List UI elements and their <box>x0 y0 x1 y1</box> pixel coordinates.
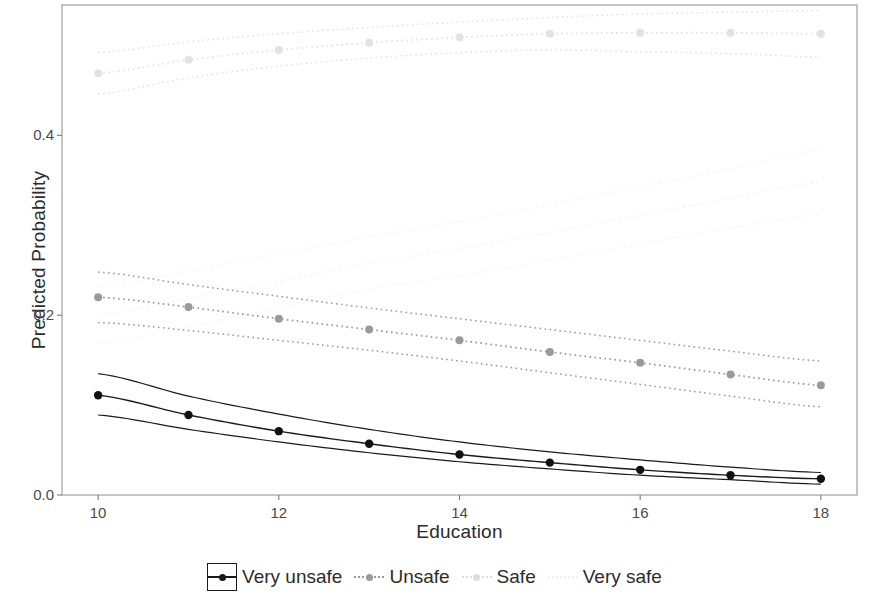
data-point <box>184 411 192 419</box>
data-point <box>275 46 283 54</box>
legend-entry-very-unsafe[interactable]: Very unsafe <box>207 563 342 591</box>
legend-marker <box>473 574 480 581</box>
data-point <box>94 293 102 301</box>
data-point <box>817 475 825 483</box>
y-tick-label: 0.0 <box>10 486 54 503</box>
data-point <box>365 39 373 47</box>
legend-marker <box>366 574 373 581</box>
y-tick-label: 0.2 <box>10 306 54 323</box>
x-tick-label: 10 <box>68 504 128 521</box>
data-point <box>546 458 554 466</box>
y-axis-title: Predicted Probability <box>26 0 52 525</box>
y-tick-label: 0.4 <box>10 126 54 143</box>
legend-entry-safe[interactable]: Safe <box>462 562 536 592</box>
data-point <box>94 391 102 399</box>
data-point <box>817 30 825 38</box>
data-point <box>275 315 283 323</box>
chart-figure: Predicted Probability Education 0.00.20.… <box>0 0 869 599</box>
legend-key-icon <box>462 562 492 592</box>
data-point <box>546 30 554 38</box>
data-point <box>365 326 373 334</box>
legend-entry-unsafe[interactable]: Unsafe <box>354 562 449 592</box>
data-point <box>817 381 825 389</box>
data-point <box>365 440 373 448</box>
legend-key-icon <box>354 562 384 592</box>
legend-label: Unsafe <box>389 566 449 588</box>
legend-key-icon <box>548 562 578 592</box>
x-tick-label: 16 <box>610 504 670 521</box>
data-point <box>726 471 734 479</box>
x-tick-label: 18 <box>791 504 851 521</box>
x-tick-label: 14 <box>430 504 490 521</box>
data-point <box>455 450 463 458</box>
x-axis-title: Education <box>62 521 857 543</box>
chart-legend: Very unsafeUnsafeSafeVery safe <box>0 558 869 596</box>
panel-border <box>62 5 857 495</box>
legend-marker <box>559 574 566 581</box>
data-point <box>94 69 102 77</box>
legend-key-icon <box>207 563 237 591</box>
legend-entry-very-safe[interactable]: Very safe <box>548 562 662 592</box>
data-point <box>275 427 283 435</box>
data-point <box>636 29 644 37</box>
data-point <box>727 371 735 379</box>
data-point <box>184 303 192 311</box>
data-point <box>546 348 554 356</box>
data-point <box>727 29 735 37</box>
x-tick-label: 12 <box>249 504 309 521</box>
data-point <box>456 33 464 41</box>
legend-label: Very unsafe <box>242 566 342 588</box>
legend-marker <box>219 574 226 581</box>
data-point <box>636 466 644 474</box>
legend-label: Safe <box>497 566 536 588</box>
data-point <box>636 359 644 367</box>
legend-label: Very safe <box>583 566 662 588</box>
data-point <box>184 56 192 64</box>
data-point <box>456 336 464 344</box>
